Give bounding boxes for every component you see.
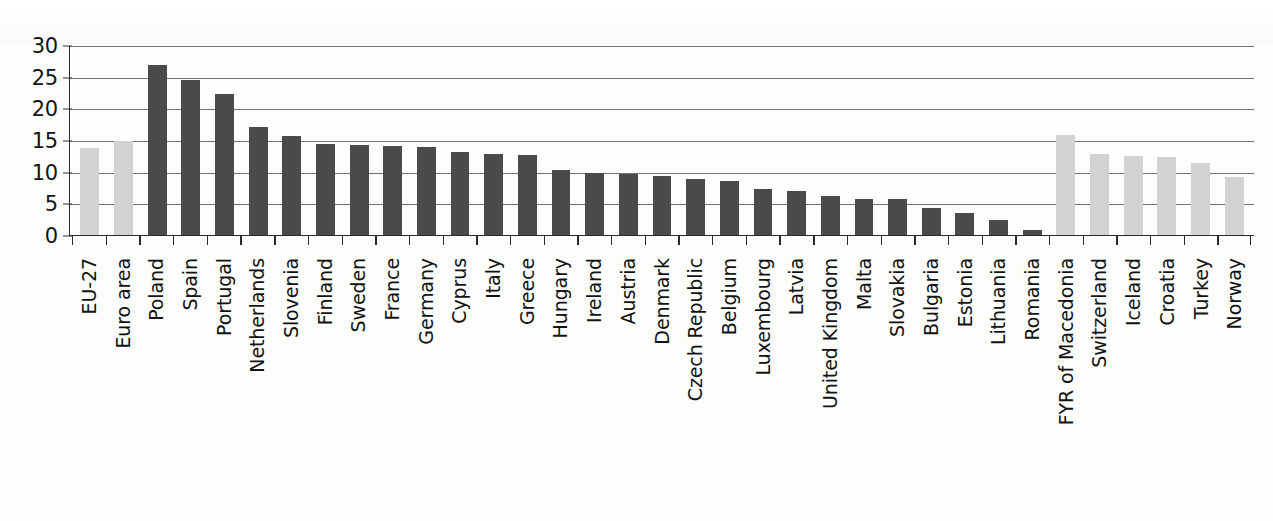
x-axis-tick [1150, 236, 1184, 245]
x-axis-tick [611, 236, 645, 245]
category-label: Czech Republic [686, 258, 705, 401]
bar[interactable] [417, 147, 436, 235]
x-axis-tick [712, 236, 746, 245]
bar[interactable] [1124, 156, 1143, 235]
bar[interactable] [451, 152, 470, 235]
bar-slot [914, 46, 948, 235]
category-label: Netherlands [248, 258, 267, 373]
x-axis-tick [476, 236, 510, 245]
x-axis-tick [443, 236, 477, 245]
category-label-slot: Netherlands [240, 258, 274, 468]
category-label-slot: Sweden [342, 258, 376, 468]
x-axis-tick [914, 236, 948, 245]
bar[interactable] [585, 173, 604, 235]
bar[interactable] [484, 154, 503, 235]
bar-slot [1083, 46, 1117, 235]
bar-slot [73, 46, 107, 235]
bar-slot [107, 46, 141, 235]
bar[interactable] [955, 213, 974, 235]
bar[interactable] [249, 127, 268, 235]
category-label-slot: Malta [847, 258, 881, 468]
y-axis-tick-label: 20 [32, 99, 58, 120]
category-label-slot: Luxembourg [746, 258, 780, 468]
bar[interactable] [552, 170, 571, 235]
category-label-slot: Italy [476, 258, 510, 468]
category-label-slot: France [375, 258, 409, 468]
bar[interactable] [653, 176, 672, 235]
y-axis-tick-label: 5 [45, 194, 58, 215]
bar[interactable] [316, 144, 335, 235]
bar-slot [275, 46, 309, 235]
x-axis-tick [106, 236, 140, 245]
x-axis-tick [779, 236, 813, 245]
bar[interactable] [720, 181, 739, 235]
x-axis-tick [1184, 236, 1218, 245]
category-label-slot: Cyprus [443, 258, 477, 468]
bar-slot [712, 46, 746, 235]
category-label-slot: Belgium [712, 258, 746, 468]
bar[interactable] [754, 189, 773, 235]
category-label: Slovenia [281, 258, 300, 338]
category-label-slot: Lithuania [982, 258, 1016, 468]
bar[interactable] [787, 191, 806, 235]
bar-slot [309, 46, 343, 235]
x-axis-tick [746, 236, 780, 245]
category-label: FYR of Macedonia [1056, 258, 1075, 425]
category-label-slot: Euro area [106, 258, 140, 468]
bar-slot [1184, 46, 1218, 235]
bar-slot [982, 46, 1016, 235]
bar[interactable] [855, 199, 874, 235]
bar-slot [948, 46, 982, 235]
bar[interactable] [888, 199, 907, 235]
bar[interactable] [518, 155, 537, 235]
category-label-slot: Estonia [948, 258, 982, 468]
bar-slot [578, 46, 612, 235]
category-label-slot: FYR of Macedonia [1049, 258, 1083, 468]
y-axis-tick-label: 15 [32, 131, 58, 152]
category-label: Iceland [1124, 258, 1143, 326]
bar[interactable] [1157, 157, 1176, 235]
category-label-slot: Latvia [779, 258, 813, 468]
bar[interactable] [1225, 177, 1244, 235]
category-label: Denmark [652, 258, 671, 345]
bar[interactable] [989, 220, 1008, 235]
category-label: Croatia [1157, 258, 1176, 326]
category-label: EU-27 [79, 258, 98, 314]
bar[interactable] [619, 174, 638, 235]
category-label-slot: Romania [1015, 258, 1049, 468]
scan-top-margin [0, 0, 1273, 44]
bar-slot [511, 46, 545, 235]
bar[interactable] [1191, 163, 1210, 235]
bar[interactable] [282, 136, 301, 235]
category-label: Norway [1225, 258, 1244, 329]
category-label: Hungary [551, 258, 570, 338]
x-axis-tick [274, 236, 308, 245]
bar[interactable] [80, 148, 99, 235]
bar[interactable] [181, 80, 200, 235]
bar[interactable] [1023, 230, 1042, 235]
bar[interactable] [1090, 154, 1109, 235]
category-label: Ireland [585, 258, 604, 323]
category-label: Estonia [955, 258, 974, 327]
category-label: Bulgaria [922, 258, 941, 336]
bar-slot [208, 46, 242, 235]
x-axis-tick [544, 236, 578, 245]
bar[interactable] [686, 179, 705, 235]
y-axis-tick-label: 10 [32, 162, 58, 183]
category-label: Lithuania [989, 258, 1008, 345]
x-axis-tick [948, 236, 982, 245]
bar[interactable] [350, 145, 369, 235]
x-axis-tick [1116, 236, 1150, 245]
category-label: Poland [147, 258, 166, 321]
bar[interactable] [114, 141, 133, 235]
x-axis-category-labels: EU-27Euro areaPolandSpainPortugalNetherl… [69, 258, 1254, 468]
category-label: Switzerland [1090, 258, 1109, 368]
bar[interactable] [922, 208, 941, 235]
bar[interactable] [821, 196, 840, 235]
bar-slot [477, 46, 511, 235]
bar[interactable] [148, 65, 167, 235]
bar[interactable] [215, 94, 234, 235]
bar-slot [813, 46, 847, 235]
bar[interactable] [383, 146, 402, 235]
bar[interactable] [1056, 135, 1075, 235]
